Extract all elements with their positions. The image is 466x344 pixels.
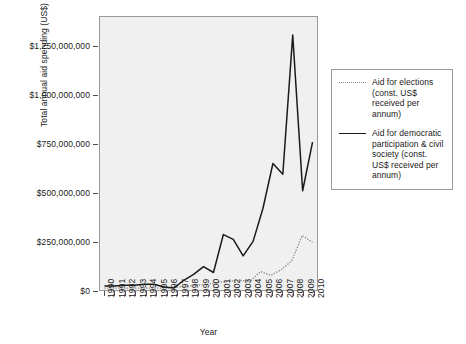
- x-tick-mark: [314, 291, 315, 296]
- y-tick-mark: [93, 242, 98, 243]
- y-tick-mark: [93, 46, 98, 47]
- x-tick-mark: [219, 291, 220, 296]
- x-tick-mark: [261, 291, 262, 296]
- y-tick-label: $1,000,000,000: [8, 91, 90, 100]
- x-tick-mark: [303, 291, 304, 296]
- x-tick-mark: [272, 291, 273, 296]
- legend-dotted-line-icon: [338, 77, 367, 88]
- x-tick-mark: [135, 291, 136, 296]
- x-tick-mark: [167, 291, 168, 296]
- x-tick-mark: [156, 291, 157, 296]
- series-line-democratic-participation: [104, 35, 312, 288]
- x-tick-mark: [240, 291, 241, 296]
- x-tick-mark: [114, 291, 115, 296]
- x-tick-mark: [146, 291, 147, 296]
- x-tick-label: 2010: [317, 279, 326, 298]
- legend-item-elections: Aid for elections (const. US$ received p…: [338, 77, 446, 119]
- legend-solid-line-icon: [338, 128, 367, 139]
- plot-area: [99, 16, 318, 291]
- chart-figure: Total annual aid spending (US$) $0$250,0…: [0, 0, 466, 344]
- y-tick-label: $500,000,000: [8, 189, 90, 198]
- y-tick-mark: [93, 193, 98, 194]
- x-tick-mark: [230, 291, 231, 296]
- x-tick-mark: [282, 291, 283, 296]
- chart-legend: Aid for elections (const. US$ received p…: [331, 69, 453, 190]
- legend-item-democratic-participation: Aid for democratic participation & civil…: [338, 128, 446, 181]
- legend-label-elections: Aid for elections (const. US$ received p…: [372, 77, 446, 119]
- x-tick-mark: [177, 291, 178, 296]
- y-tick-label: $1,250,000,000: [8, 42, 90, 51]
- x-tick-mark: [209, 291, 210, 296]
- y-tick-label: $750,000,000: [8, 140, 90, 149]
- y-tick-label: $250,000,000: [8, 238, 90, 247]
- x-tick-mark: [188, 291, 189, 296]
- plot-lines: [100, 17, 317, 290]
- x-tick-mark: [293, 291, 294, 296]
- legend-label-democratic-participation: Aid for democratic participation & civil…: [372, 128, 446, 181]
- x-axis-title: Year: [99, 327, 318, 337]
- x-tick-mark: [104, 291, 105, 296]
- y-tick-mark: [93, 144, 98, 145]
- x-tick-mark: [251, 291, 252, 296]
- y-tick-mark: [93, 95, 98, 96]
- x-tick-mark: [198, 291, 199, 296]
- x-tick-mark: [125, 291, 126, 296]
